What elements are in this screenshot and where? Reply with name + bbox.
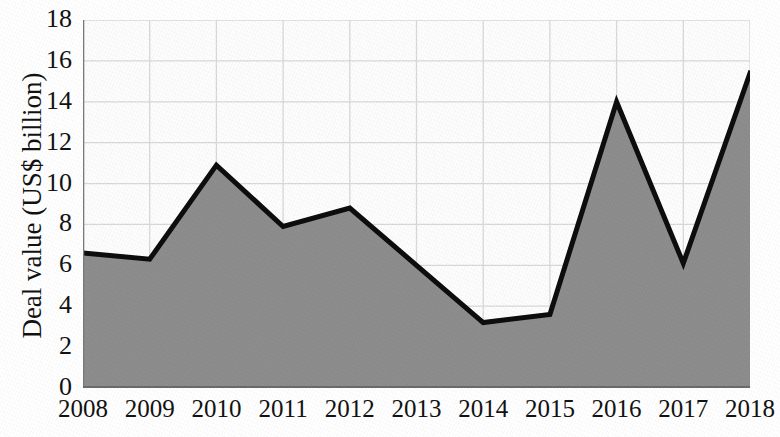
area-chart-svg <box>83 20 750 388</box>
x-axis-tick-label: 2009 <box>125 394 175 424</box>
x-axis-tick-label: 2016 <box>592 394 642 424</box>
y-axis-tick-label: 8 <box>59 210 72 236</box>
y-axis-tick-label: 18 <box>46 6 72 32</box>
x-axis-tick-label: 2017 <box>658 394 708 424</box>
y-axis-tick-label: 2 <box>59 333 72 359</box>
y-axis-tick-label: 6 <box>59 251 72 277</box>
y-axis-tick-label: 12 <box>46 129 72 155</box>
x-axis-tick-labels: 2008200920102011201220132014201520162017… <box>0 394 780 436</box>
y-axis-tick-label: 16 <box>46 47 72 73</box>
y-axis-tick-labels: 024681012141618 <box>0 0 80 437</box>
x-axis-tick-label: 2008 <box>58 394 108 424</box>
x-axis-tick-label: 2010 <box>191 394 241 424</box>
plot-area <box>83 20 750 388</box>
y-axis-tick-label: 14 <box>46 88 72 114</box>
x-axis-tick-label: 2018 <box>725 394 775 424</box>
x-axis-tick-label: 2014 <box>458 394 508 424</box>
chart-figure: Deal value (US$ billion) 024681012141618… <box>0 0 780 437</box>
x-axis-tick-label: 2013 <box>392 394 442 424</box>
x-axis-tick-label: 2011 <box>259 394 308 424</box>
x-axis-tick-label: 2015 <box>525 394 575 424</box>
x-axis-tick-label: 2012 <box>325 394 375 424</box>
y-axis-tick-label: 10 <box>46 170 72 196</box>
y-axis-tick-label: 4 <box>59 292 72 318</box>
